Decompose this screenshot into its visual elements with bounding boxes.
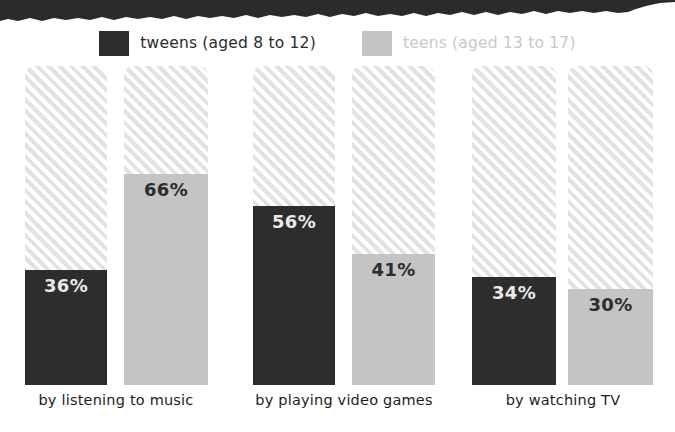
torn-paper-strip — [0, 0, 675, 22]
category-label-tv: by watching TV — [447, 392, 675, 408]
bar-value-tv-tweens: 34% — [492, 284, 536, 302]
legend-item-tweens: tweens (aged 8 to 12) — [99, 31, 316, 56]
bar-fill-games-tweens: 56% — [253, 206, 335, 385]
legend-swatch-teens — [362, 31, 392, 56]
bar-value-games-tweens: 56% — [272, 213, 316, 231]
legend-swatch-tweens — [99, 31, 129, 56]
bar-tv-teens: 30% — [568, 66, 653, 385]
bar-fill-music-tweens: 36% — [25, 270, 107, 385]
category-label-music: by listening to music — [0, 392, 232, 408]
bar-value-music-teens: 66% — [144, 181, 188, 199]
legend-label-teens: teens (aged 13 to 17) — [403, 34, 576, 52]
bar-value-tv-teens: 30% — [589, 296, 633, 314]
bar-fill-tv-tweens: 34% — [472, 277, 556, 385]
legend-item-teens: teens (aged 13 to 17) — [362, 31, 576, 56]
bar-fill-music-teens: 66% — [124, 174, 208, 385]
bar-fill-tv-teens: 30% — [568, 289, 653, 385]
bar-music-teens: 66% — [124, 66, 208, 385]
torn-paper-shape — [0, 0, 675, 21]
bar-games-tweens: 56% — [253, 66, 335, 385]
legend-label-tweens: tweens (aged 8 to 12) — [140, 34, 316, 52]
bar-tv-tweens: 34% — [472, 66, 556, 385]
x-axis-labels: by listening to music by playing video g… — [0, 392, 675, 420]
bar-music-tweens: 36% — [25, 66, 107, 385]
bar-value-music-tweens: 36% — [44, 277, 88, 295]
chart-legend: tweens (aged 8 to 12) teens (aged 13 to … — [0, 28, 675, 58]
bar-games-teens: 41% — [352, 66, 435, 385]
chart-plot-area: 36% 66% 56% 41% 34% 30% — [0, 66, 675, 385]
bar-fill-games-teens: 41% — [352, 254, 435, 385]
bar-value-games-teens: 41% — [372, 261, 416, 279]
category-label-games: by playing video games — [228, 392, 460, 408]
